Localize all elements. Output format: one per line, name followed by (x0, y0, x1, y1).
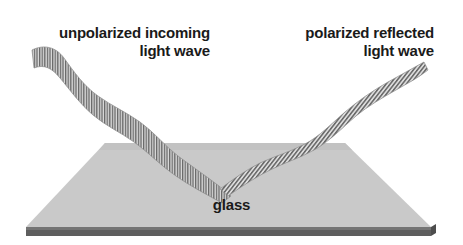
label-incoming-line1: unpolarized incoming (34, 24, 210, 42)
label-incoming-line2: light wave (34, 42, 210, 60)
label-incoming-wave: unpolarized incoming light wave (34, 24, 210, 60)
physics-diagram-figure: unpolarized incoming light wave polarize… (0, 0, 463, 245)
label-glass-surface: glass (0, 196, 463, 214)
slab-front-edge-highlight (26, 227, 431, 230)
label-reflected-line2: light wave (262, 42, 434, 60)
label-reflected-wave: polarized reflected light wave (262, 24, 434, 60)
label-reflected-line1: polarized reflected (262, 24, 434, 42)
slab-right-bevel (431, 224, 436, 236)
